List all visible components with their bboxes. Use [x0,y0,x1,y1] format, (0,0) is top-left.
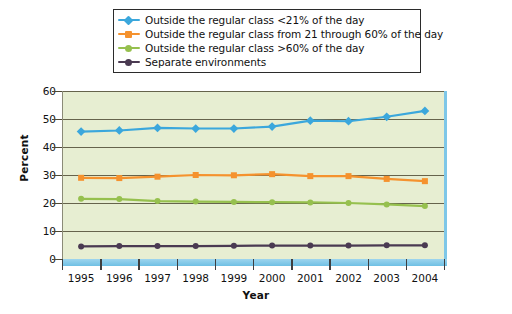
data-point-marker [268,122,277,131]
data-point-marker [116,175,122,181]
data-point-marker [155,243,161,249]
data-series [78,171,428,184]
data-point-marker [115,126,124,135]
data-point-marker [269,243,275,249]
data-point-marker [421,106,430,115]
data-point-marker [306,116,315,125]
data-point-marker [307,243,313,249]
y-axis-tick [52,91,62,92]
data-point-marker [231,199,237,205]
data-point-marker [307,173,313,179]
y-axis-title: Percent [18,128,30,188]
data-point-marker [116,243,122,249]
data-point-marker [77,127,86,136]
x-axis-tick [291,259,292,270]
data-point-marker [78,196,84,202]
x-axis-tick [253,259,254,270]
x-axis-tick-label: 2004 [403,272,447,284]
series-line [81,245,425,246]
legend-item-label: Outside the regular class <21% of the da… [145,14,364,26]
legend-item-label: Separate environments [145,56,266,68]
data-point-marker [384,176,390,182]
series-line [81,199,425,206]
data-point-marker [422,178,428,184]
y-axis-tick [52,147,62,148]
data-series [78,196,428,209]
y-axis-tick [52,119,62,120]
legend-item-label: Outside the regular class from 21 throug… [145,28,443,40]
y-axis-tick [52,259,62,260]
data-point-marker [384,201,390,207]
data-point-marker [346,243,352,249]
data-point-marker [153,124,162,133]
data-point-marker [193,172,199,178]
data-point-marker [155,174,161,180]
x-axis-title: Year [0,289,512,301]
data-point-marker [230,124,239,133]
x-axis-tick [138,259,139,270]
data-point-marker [344,117,353,126]
data-series [78,242,428,249]
data-point-marker [78,243,84,249]
data-series [77,106,430,135]
series-line [81,111,425,132]
legend-item: Outside the regular class from 21 throug… [118,27,416,41]
data-point-marker [384,242,390,248]
data-point-marker [382,112,391,121]
x-axis-tick [329,259,330,270]
data-point-marker [193,243,199,249]
series-line [81,174,425,181]
y-axis-tick [52,231,62,232]
data-point-marker [346,200,352,206]
data-point-marker [269,171,275,177]
y-axis-tick [52,203,62,204]
legend-item: Outside the regular class <21% of the da… [118,13,416,27]
x-axis-tick [62,259,63,270]
data-point-marker [422,203,428,209]
x-axis-tick [215,259,216,270]
x-axis-tick [406,259,407,270]
legend-item: Separate environments [118,55,416,69]
x-axis-tick [177,259,178,270]
data-point-marker [422,242,428,248]
legend-marker-purple-circle-icon [118,56,140,68]
x-axis-tick [444,259,445,270]
legend-item-label: Outside the regular class >60% of the da… [145,42,364,54]
chart-legend: Outside the regular class <21% of the da… [113,9,421,73]
x-axis-tick [368,259,369,270]
legend-marker-green-circle-icon [118,42,140,54]
x-axis-band [62,259,447,266]
data-point-marker [193,199,199,205]
data-point-marker [307,199,313,205]
data-point-marker [78,175,84,181]
legend-marker-blue-diamond-icon [118,14,140,26]
data-point-marker [116,196,122,202]
series-layer [62,91,444,259]
data-point-marker [231,243,237,249]
legend-marker-orange-square-icon [118,28,140,40]
data-point-marker [269,199,275,205]
data-point-marker [346,173,352,179]
legend-item: Outside the regular class >60% of the da… [118,41,416,55]
data-point-marker [231,172,237,178]
data-point-marker [191,124,200,133]
x-axis-tick [100,259,101,270]
y-axis-tick [52,175,62,176]
data-point-marker [155,198,161,204]
